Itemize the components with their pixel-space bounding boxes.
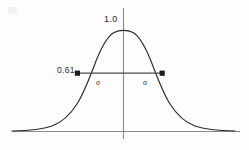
peak-value-label: 1.0	[104, 15, 118, 24]
ordinate-at-sigma-label: 0.61	[57, 66, 75, 75]
sigma-label-left: σ	[96, 79, 100, 87]
gaussian-curve-figure: 1.0 0.61 σ σ	[0, 0, 249, 150]
sigma-label-right: σ	[143, 79, 147, 87]
sigma-marker-left	[75, 71, 80, 76]
figure-canvas	[0, 0, 249, 150]
sigma-marker-right	[160, 71, 165, 76]
